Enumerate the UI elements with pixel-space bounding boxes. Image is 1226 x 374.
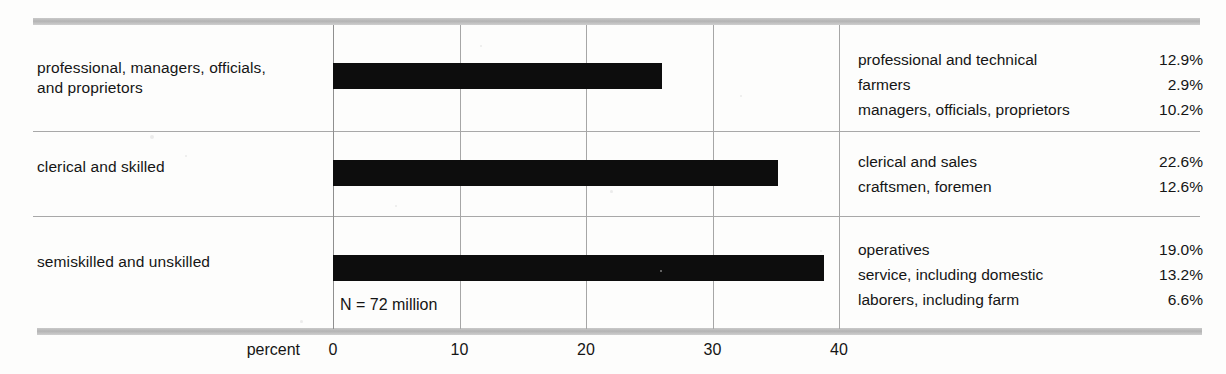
legend-item-label: clerical and sales: [858, 149, 977, 174]
bottom-rule-band: [37, 328, 1202, 335]
category-label-line1: clerical and skilled: [37, 157, 325, 177]
legend-item-label: professional and technical: [858, 47, 1037, 72]
legend-item-label: farmers: [858, 72, 911, 97]
legend-item-value: 13.2%: [1159, 262, 1203, 287]
legend-group-semiskilled: operatives 19.0% service, including dome…: [858, 237, 1203, 312]
scan-speckle: [610, 190, 613, 193]
category-label-line2: and proprietors: [37, 78, 325, 98]
scan-speckle: [1000, 300, 1002, 302]
scan-speckle: [395, 205, 397, 207]
legend-item-label: service, including domestic: [858, 262, 1043, 287]
legend-item: professional and technical 12.9%: [858, 47, 1203, 72]
category-label: professional, managers, officials, and p…: [37, 58, 325, 98]
x-tick-10: 10: [451, 341, 469, 359]
legend-group-clerical: clerical and sales 22.6% craftsmen, fore…: [858, 149, 1203, 199]
sample-size-annotation: N = 72 million: [340, 296, 437, 314]
x-tick-30: 30: [704, 341, 722, 359]
legend-item-value: 22.6%: [1159, 149, 1203, 174]
scan-speckle: [660, 270, 662, 272]
x-tick-20: 20: [577, 341, 595, 359]
legend-item: managers, officials, proprietors 10.2%: [858, 97, 1203, 122]
x-axis-title: percent: [247, 341, 300, 359]
legend-group-professional: professional and technical 12.9% farmers…: [858, 47, 1203, 122]
legend-item: service, including domestic 13.2%: [858, 262, 1203, 287]
legend-item-value: 2.9%: [1168, 72, 1203, 97]
scan-speckle: [185, 155, 187, 157]
legend-item-value: 12.6%: [1159, 174, 1203, 199]
legend-item: craftsmen, foremen 12.6%: [858, 174, 1203, 199]
chart-row-clerical: clerical and skilled clerical and sales …: [0, 132, 1226, 216]
scan-speckle: [740, 95, 742, 97]
legend-item-label: operatives: [858, 237, 930, 262]
x-tick-0: 0: [329, 341, 338, 359]
category-label-line1: professional, managers, officials,: [37, 58, 325, 78]
chart-row-professional: professional, managers, officials, and p…: [0, 25, 1226, 131]
bar-clerical: [333, 160, 778, 186]
legend-item: operatives 19.0%: [858, 237, 1203, 262]
bar-professional: [333, 63, 662, 89]
scan-speckle: [820, 250, 822, 252]
legend-item-label: laborers, including farm: [858, 287, 1019, 312]
chart-row-semiskilled: semiskilled and unskilled operatives 19.…: [0, 217, 1226, 328]
top-rule-band: [33, 18, 1200, 25]
scan-speckle: [905, 160, 907, 162]
category-label: clerical and skilled: [37, 157, 325, 177]
bar-semiskilled: [333, 255, 824, 281]
scan-speckle: [300, 320, 303, 323]
category-label: semiskilled and unskilled: [37, 252, 325, 272]
scan-speckle: [480, 45, 482, 47]
legend-item: farmers 2.9%: [858, 72, 1203, 97]
legend-item-label: craftsmen, foremen: [858, 174, 992, 199]
legend-item: laborers, including farm 6.6%: [858, 287, 1203, 312]
legend-item-value: 10.2%: [1159, 97, 1203, 122]
x-tick-40: 40: [830, 341, 848, 359]
category-label-line1: semiskilled and unskilled: [37, 252, 325, 272]
scan-speckle: [60, 60, 63, 63]
bar-chart-figure: professional, managers, officials, and p…: [0, 0, 1226, 374]
legend-item-value: 12.9%: [1159, 47, 1203, 72]
legend-item-label: managers, officials, proprietors: [858, 97, 1070, 122]
legend-item-value: 19.0%: [1159, 237, 1203, 262]
legend-item-value: 6.6%: [1168, 287, 1203, 312]
legend-item: clerical and sales 22.6%: [858, 149, 1203, 174]
scan-speckle: [150, 135, 154, 139]
